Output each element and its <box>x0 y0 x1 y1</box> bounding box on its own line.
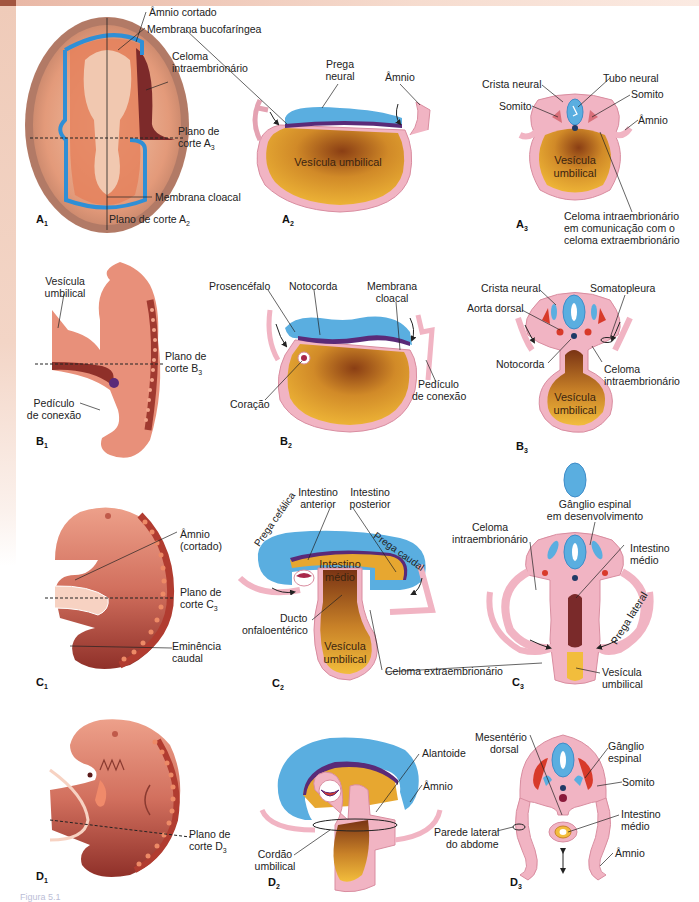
label-notocorda: Notocorda <box>496 358 544 370</box>
panel-label-b2: B2 <box>280 435 292 449</box>
panel-b3: Crista neural Somatopleura Aorta dorsal … <box>440 260 699 480</box>
label-plano-2: corte B3 <box>165 362 202 379</box>
label-cordao-1: Cordão <box>250 848 300 860</box>
panel-label-d3: D3 <box>510 876 522 890</box>
label-tubo-neural: Tubo neural <box>603 72 659 84</box>
label-ganglio-1: Gânglio espinal <box>535 498 655 510</box>
label-plano-corte-a3-2: corte A3 <box>178 137 215 154</box>
label-vesicula-2: umbilical <box>40 287 90 299</box>
panel-d2: Alantoide Âmnio Cordão umbilical D2 <box>200 690 460 890</box>
label-ganglio-2: em desenvolvimento <box>535 510 655 522</box>
label-prega-2: neural <box>320 70 360 82</box>
label-celoma-1: Celoma <box>172 50 208 62</box>
panel-c2: Intestino anterior Intestino posterior P… <box>200 480 460 700</box>
label-membrana-2: cloacal <box>362 292 422 304</box>
label-int-medio-1: Intestino <box>315 558 365 571</box>
label-int-posterior-1: Intestino <box>340 486 400 498</box>
panel-label-b3: B3 <box>516 440 528 454</box>
label-crista-neural: Crista neural <box>482 78 542 90</box>
label-ganglio-1: Gânglio <box>608 740 644 752</box>
label-parede-1: Parede lateral <box>434 826 499 838</box>
label-somito-left: Somito <box>499 100 532 112</box>
label-celoma-3: celoma extraembrionário <box>564 234 680 246</box>
panel-a2: Prega neural Âmnio Vesícula umbilical A2 <box>230 0 470 240</box>
label-membrana-1: Membrana <box>362 280 422 292</box>
d3-transverse-section-illustration <box>440 690 699 890</box>
label-vesicula-umbilical: Vesícula umbilical <box>278 156 398 169</box>
label-ducto-1: Ducto <box>280 612 307 624</box>
label-pediculo-2: de conexão <box>24 409 84 421</box>
label-plano-corte-a2: Plano de corte A2 <box>109 213 190 230</box>
label-plano-corte-a3-1: Plano de <box>178 125 219 137</box>
label-vesicula-1: Vesícula <box>40 275 90 287</box>
panel-a1: Âmnio cortado Membrana bucofaríngea Celo… <box>0 0 240 240</box>
label-amnio-cortado: Âmnio cortado <box>149 6 217 18</box>
panel-label-d1: D1 <box>36 870 48 884</box>
panel-label-a1: A1 <box>36 213 48 227</box>
label-vesicula-1: Vesícula <box>315 640 375 653</box>
label-vesicula-2: umbilical <box>602 678 643 690</box>
panel-b2: Prosencéfalo Notocorda Membrana cloacal … <box>200 260 460 480</box>
label-celoma-2: em comunicação com o <box>564 222 675 234</box>
label-amnio: Âmnio <box>638 114 668 126</box>
panel-d3: Mesentério dorsal Gânglio espinal Somito… <box>440 690 699 890</box>
label-mesenterio-1: Mesentério <box>475 731 527 743</box>
panel-label-c3: C3 <box>512 676 524 690</box>
label-int-medio-1: Intestino <box>621 808 661 820</box>
label-int-anterior-2: anterior <box>288 498 348 510</box>
panel-label-a3: A3 <box>516 218 528 232</box>
a2-cross-section-illustration <box>230 0 470 240</box>
label-int-medio-2: médio <box>621 820 650 832</box>
label-pediculo-1: Pedículo <box>24 397 84 409</box>
label-vesicula-2: umbilical <box>545 404 605 417</box>
label-vesicula-1: Vesícula <box>602 666 642 678</box>
panel-a3: Crista neural Tubo neural Somito Somito … <box>460 0 699 250</box>
label-vesicula-1: Vesícula <box>540 154 610 167</box>
panel-label-d2: D2 <box>268 876 280 890</box>
label-int-posterior-2: posterior <box>340 498 400 510</box>
label-prega-1: Prega <box>320 58 360 70</box>
label-celoma-2: intraembrionário <box>604 375 680 387</box>
label-int-medio-2: médio <box>630 554 659 566</box>
label-aorta-dorsal: Aorta dorsal <box>467 302 524 314</box>
label-celoma-1: Celoma intraembrionário <box>564 210 679 222</box>
label-somatopleura: Somatopleura <box>590 282 655 294</box>
panel-label-b1: B1 <box>36 435 48 449</box>
label-notocorda: Notocorda <box>289 280 337 292</box>
label-amnio: Âmnio <box>385 71 415 83</box>
label-eminencia-2: caudal <box>172 652 203 664</box>
a1-embryonic-disc-illustration <box>0 0 240 240</box>
label-vesicula-1: Vesícula <box>545 391 605 404</box>
panel-label-c1: C1 <box>36 676 48 690</box>
label-vesicula-2: umbilical <box>315 653 375 666</box>
label-int-medio-2: médio <box>315 571 365 584</box>
label-membrana-cloacal: Membrana cloacal <box>155 191 241 203</box>
label-crista-neural: Crista neural <box>481 282 541 294</box>
label-cordao-2: umbilical <box>245 860 305 872</box>
label-somito: Somito <box>622 776 655 788</box>
label-amnio: Âmnio <box>615 847 645 859</box>
label-celoma-1: Celoma <box>604 363 640 375</box>
label-mesenterio-2: dorsal <box>490 743 519 755</box>
label-somito-right: Somito <box>631 88 664 100</box>
label-coracao: Coração <box>230 398 270 410</box>
b3-transverse-section-illustration <box>440 260 699 480</box>
label-int-medio-1: Intestino <box>630 542 670 554</box>
label-ganglio-2: espinal <box>608 752 641 764</box>
label-celoma-1: Celoma <box>445 521 535 533</box>
figure-caption: Figura 5.1 <box>20 892 61 902</box>
label-vesicula-2: umbilical <box>540 167 610 180</box>
label-celoma-2: intraembrionário <box>445 533 535 545</box>
d2-sagittal-section-illustration <box>200 690 460 890</box>
panel-c3: Gânglio espinal em desenvolvimento Celom… <box>440 480 699 700</box>
panel-label-a2: A2 <box>282 213 294 227</box>
label-prosencefalo: Prosencéfalo <box>209 280 270 292</box>
label-ducto-2: onfaloentérico <box>242 624 308 636</box>
label-parede-2: do abdome <box>446 838 499 850</box>
